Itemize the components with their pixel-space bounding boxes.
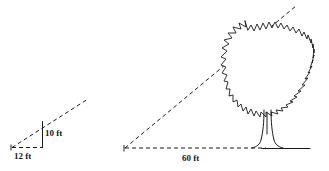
large-triangle-base-label: 60 ft — [182, 153, 199, 163]
tree-canopy-icon — [221, 21, 314, 117]
diagram-canvas: 10 ft 12 ft 60 ft — [0, 0, 329, 171]
tree-trunk-right-icon — [271, 110, 283, 148]
small-reference-triangle: 10 ft 12 ft — [11, 99, 88, 161]
small-triangle-base-label: 12 ft — [14, 151, 31, 161]
similar-triangles-diagram: 10 ft 12 ft 60 ft — [0, 0, 329, 171]
small-triangle-height-label: 10 ft — [45, 128, 62, 138]
tree-illustration — [221, 21, 314, 148]
small-triangle-hypotenuse-line — [12, 99, 88, 148]
